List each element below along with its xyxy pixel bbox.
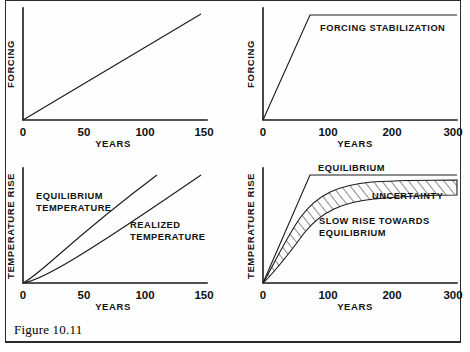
xtick-300: 300 <box>443 289 462 301</box>
xtick-0: 0 <box>20 126 26 138</box>
xtick-0: 0 <box>260 126 266 138</box>
panel-top-left: 0 50 100 150 YEARS FORCING <box>5 8 214 149</box>
x-axis-label: YEARS <box>95 301 131 312</box>
xtick-100: 100 <box>318 126 337 138</box>
annotation-forcing-stabilization: FORCING STABILIZATION <box>320 23 445 33</box>
xtick-100: 100 <box>318 289 337 301</box>
series-forcing-ramp <box>23 14 201 120</box>
figure-caption: Figure 10.11 <box>14 322 82 338</box>
x-axis-label: YEARS <box>337 301 373 312</box>
y-axis-label: FORCING <box>245 40 256 88</box>
x-axis-label: YEARS <box>337 138 373 149</box>
annotation-equilibrium-1: EQUILIBRIUM <box>36 191 103 201</box>
xtick-200: 200 <box>382 289 401 301</box>
xtick-50: 50 <box>78 126 91 138</box>
annotation-equilibrium: EQUILIBRIUM <box>318 163 385 173</box>
panel-top-right: FORCING STABILIZATION 0 100 200 300 YEAR… <box>245 8 463 149</box>
annotation-realized-2: TEMPERATURE <box>130 232 206 242</box>
y-axis-label: FORCING <box>5 40 16 88</box>
y-axis-label: TEMPERATURE RISE <box>5 173 16 279</box>
xtick-100: 100 <box>135 126 154 138</box>
panel-bottom-left: EQUILIBRIUM TEMPERATURE REALIZED TEMPERA… <box>5 168 214 312</box>
xtick-200: 200 <box>382 126 401 138</box>
x-axis-label: YEARS <box>95 138 131 149</box>
xtick-0: 0 <box>20 289 26 301</box>
annotation-uncertainty: UNCERTAINTY <box>372 191 444 201</box>
figure-svg: 0 50 100 150 YEARS FORCING FORCING STABI… <box>0 0 470 352</box>
xtick-50: 50 <box>78 289 91 301</box>
annotation-realized-1: REALIZED <box>130 220 181 230</box>
annotation-equilibrium-2: TEMPERATURE <box>36 203 112 213</box>
annotation-slow-rise-2: EQUILIBRIUM <box>319 228 386 238</box>
xtick-300: 300 <box>443 126 462 138</box>
xtick-150: 150 <box>194 289 213 301</box>
xtick-150: 150 <box>194 126 213 138</box>
figure-panels: 0 50 100 150 YEARS FORCING FORCING STABI… <box>0 0 470 352</box>
panel-bottom-right: EQUILIBRIUM UNCERTAINTY SLOW RISE TOWARD… <box>245 163 463 312</box>
xtick-0: 0 <box>260 289 266 301</box>
y-axis-label: TEMPERATURE RISE <box>245 173 256 279</box>
xtick-100: 100 <box>135 289 154 301</box>
annotation-slow-rise-1: SLOW RISE TOWARDS <box>319 216 430 226</box>
